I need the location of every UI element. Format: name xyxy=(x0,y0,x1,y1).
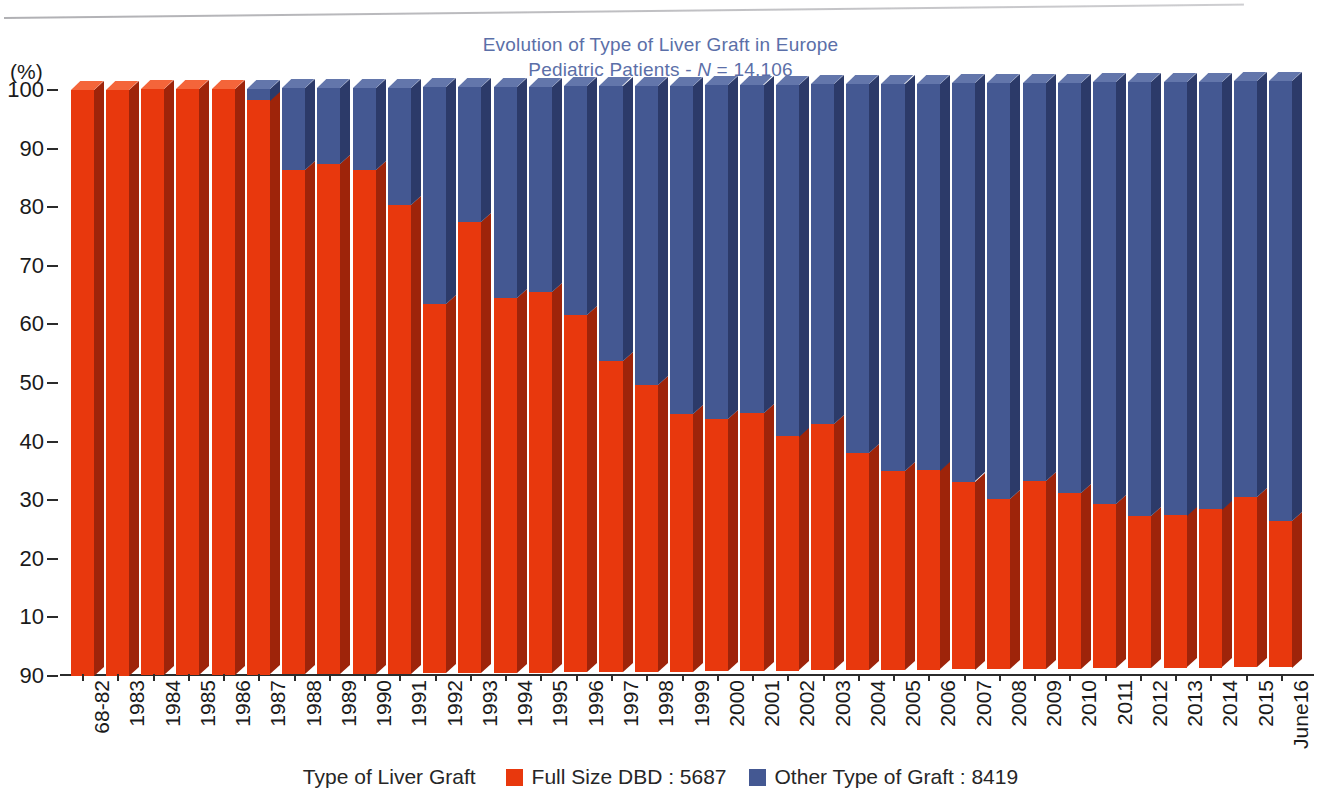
x-axis-tick-mark xyxy=(435,674,437,681)
bar-face xyxy=(740,413,763,671)
y-axis-tick-mark xyxy=(47,441,58,443)
bar-face xyxy=(317,164,340,674)
bar-segment-full-size-dbd xyxy=(458,222,481,673)
bar-segment-other-type-of-graft xyxy=(317,88,340,164)
bar-segment-other-type-of-graft xyxy=(494,87,517,298)
bar-side-face xyxy=(728,410,738,671)
bar-face xyxy=(458,222,481,673)
bar-segment-other-type-of-graft xyxy=(423,87,446,304)
bar-1995 xyxy=(529,87,552,673)
bar-1985 xyxy=(176,89,199,675)
bar-face xyxy=(1058,83,1081,493)
bar-face xyxy=(952,83,975,481)
bar-1984 xyxy=(141,89,164,675)
bar-2008 xyxy=(987,83,1010,669)
bar-face xyxy=(458,87,481,222)
bar-segment-other-type-of-graft xyxy=(705,85,728,419)
bar-2004 xyxy=(846,84,869,670)
bar-segment-full-size-dbd xyxy=(1023,481,1046,669)
bar-face xyxy=(282,88,305,170)
bar-1989 xyxy=(317,88,340,674)
bar-1999 xyxy=(670,86,693,672)
x-axis-tick-mark xyxy=(540,674,542,681)
bar-segment-other-type-of-graft xyxy=(670,86,693,414)
x-axis-tick-mark xyxy=(964,674,966,681)
x-axis-tick-label: 2015 xyxy=(1255,680,1276,727)
bar-side-face xyxy=(517,289,527,673)
bar-side-face xyxy=(1257,488,1267,667)
x-axis-tick-label: 2011 xyxy=(1114,680,1135,725)
bar-side-face xyxy=(1187,506,1197,667)
bar-2015 xyxy=(1234,81,1257,667)
bar-side-face xyxy=(1116,495,1126,668)
bar-side-face xyxy=(305,79,315,170)
bar-side-face xyxy=(623,352,633,672)
x-axis-tick-label: 1990 xyxy=(373,680,394,727)
bar-face xyxy=(635,86,658,385)
bar-side-face xyxy=(1222,73,1232,510)
bar-segment-other-type-of-graft xyxy=(1269,81,1292,521)
x-axis-tick-label: 2014 xyxy=(1219,680,1240,727)
x-axis-tick-mark xyxy=(823,674,825,681)
bar-face xyxy=(1234,81,1257,497)
bar-side-face xyxy=(975,74,985,481)
x-axis-tick-label: 1994 xyxy=(514,680,535,727)
bar-side-face xyxy=(517,78,527,298)
bar-side-face xyxy=(376,161,386,674)
bar-face xyxy=(881,471,904,670)
x-axis-tick-label: 1995 xyxy=(549,680,570,727)
bar-face xyxy=(705,85,728,419)
bar-segment-full-size-dbd xyxy=(247,100,270,674)
bar-side-face xyxy=(1010,74,1020,499)
bar-face xyxy=(1234,497,1257,667)
bar-side-face xyxy=(481,78,491,222)
bar-segment-full-size-dbd xyxy=(705,419,728,671)
bar-segment-full-size-dbd xyxy=(952,482,975,670)
bar-side-face xyxy=(1151,73,1161,516)
bar-side-face xyxy=(94,81,104,676)
bar-segment-full-size-dbd xyxy=(529,292,552,673)
x-axis-tick-label: 2008 xyxy=(1008,680,1029,727)
x-axis-tick-label: 1988 xyxy=(303,680,324,727)
bar-side-face xyxy=(1046,472,1056,669)
x-axis-tick-mark xyxy=(893,674,895,681)
x-axis-tick-mark xyxy=(82,674,84,681)
bar-face xyxy=(141,89,164,675)
bar-face xyxy=(1023,83,1046,481)
x-axis-tick-label: 1993 xyxy=(479,680,500,727)
bar-face xyxy=(1093,82,1116,504)
x-axis-tick-mark xyxy=(399,674,401,681)
bar-face xyxy=(1269,81,1292,521)
x-axis-tick-mark xyxy=(646,674,648,681)
bar-side-face xyxy=(340,155,350,674)
bar-segment-full-size-dbd xyxy=(282,170,305,674)
bar-segment-other-type-of-graft xyxy=(952,83,975,481)
bar-segment-other-type-of-graft xyxy=(1093,82,1116,504)
x-axis-tick-mark xyxy=(611,674,613,681)
x-axis-tick-label: 2001 xyxy=(761,680,782,727)
bar-side-face xyxy=(834,415,844,670)
bar-side-face xyxy=(411,79,421,205)
bar-face xyxy=(494,298,517,673)
legend-color-swatch xyxy=(506,769,523,786)
bar-face xyxy=(811,84,834,424)
bar-face xyxy=(670,414,693,672)
x-axis-tick-label: 1991 xyxy=(408,680,429,727)
bar-side-face xyxy=(975,473,985,670)
bar-segment-other-type-of-graft xyxy=(247,89,270,101)
bar-segment-full-size-dbd xyxy=(917,470,940,669)
bar-face xyxy=(388,88,411,205)
bar-face xyxy=(388,205,411,674)
bar-1987 xyxy=(247,89,270,675)
bar-side-face xyxy=(235,80,245,675)
x-axis: 68-8219831984198519861987198819891990199… xyxy=(66,680,1314,772)
bar-2007 xyxy=(952,83,975,669)
x-axis-tick-label: 1998 xyxy=(655,680,676,727)
bar-side-face xyxy=(270,91,280,674)
bar-face xyxy=(564,315,587,672)
x-axis-tick-mark xyxy=(1210,674,1212,681)
bar-segment-full-size-dbd xyxy=(811,424,834,670)
x-axis-tick-label: 1983 xyxy=(126,680,147,727)
bar-segment-other-type-of-graft xyxy=(811,84,834,424)
bar-segment-full-size-dbd xyxy=(388,205,411,674)
